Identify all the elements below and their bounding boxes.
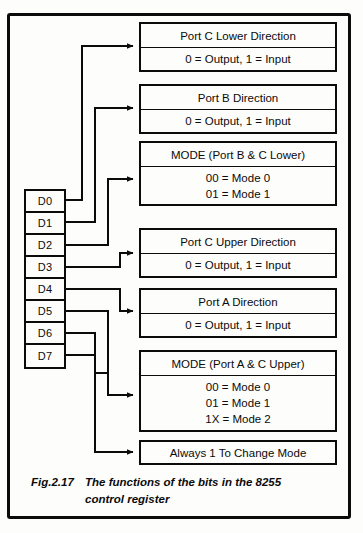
box-port-c-upper-direction: Port C Upper Direction 0 = Output, 1 = I… xyxy=(139,228,337,278)
box-body-port-b-direction: 0 = Output, 1 = Input xyxy=(141,110,335,132)
box-line-port-a-direction-0: 0 = Output, 1 = Input xyxy=(185,317,291,333)
box-body-mode-port-b-c-lower: 00 = Mode 0 01 = Mode 1 xyxy=(141,167,335,204)
box-line-mode-port-a-c-upper-0: 00 = Mode 0 xyxy=(206,379,270,395)
figure-8255-control-register: D0 D1 D2 D3 D4 D5 D6 D7 Port C Lower Dir… xyxy=(0,0,363,533)
bit-label-d5: D5 xyxy=(38,305,52,317)
wire-d0 xyxy=(66,46,133,200)
bit-label-d4: D4 xyxy=(38,283,52,295)
bit-cell-d4[interactable]: D4 xyxy=(26,279,64,301)
box-body-port-a-direction: 0 = Output, 1 = Input xyxy=(141,314,335,336)
box-line-port-b-direction-0: 0 = Output, 1 = Input xyxy=(185,113,291,129)
bit-label-d1: D1 xyxy=(38,217,52,229)
bit-label-d6: D6 xyxy=(38,327,52,339)
box-line-port-c-upper-direction-0: 0 = Output, 1 = Input xyxy=(185,257,291,273)
box-line-mode-port-a-c-upper-1: 01 = Mode 1 xyxy=(206,395,270,411)
wire-d1 xyxy=(66,108,133,222)
box-title-mode-port-a-c-upper: MODE (Port A & C Upper) xyxy=(141,352,335,376)
box-port-c-lower-direction: Port C Lower Direction 0 = Output, 1 = I… xyxy=(139,22,337,72)
box-title-port-b-direction: Port B Direction xyxy=(141,86,335,110)
bit-label-d3: D3 xyxy=(38,261,52,273)
box-mode-port-b-c-lower: MODE (Port B & C Lower) 00 = Mode 0 01 =… xyxy=(139,141,337,206)
bit-cell-d0[interactable]: D0 xyxy=(26,191,64,213)
box-title-always-1-to-change-mode: Always 1 To Change Mode xyxy=(141,442,335,463)
box-title-port-a-direction: Port A Direction xyxy=(141,290,335,314)
wire-d4 xyxy=(66,289,133,311)
box-body-mode-port-a-c-upper: 00 = Mode 0 01 = Mode 1 1X = Mode 2 xyxy=(141,376,335,430)
box-title-port-c-lower-direction: Port C Lower Direction xyxy=(141,24,335,48)
box-always-1-to-change-mode: Always 1 To Change Mode xyxy=(139,440,337,465)
bit-cell-d3[interactable]: D3 xyxy=(26,257,64,279)
figure-caption: Fig.2.17The functions of the bits in the… xyxy=(31,474,331,508)
box-port-a-direction: Port A Direction 0 = Output, 1 = Input xyxy=(139,288,337,338)
box-line-port-c-lower-direction-0: 0 = Output, 1 = Input xyxy=(185,51,291,67)
wire-d5 xyxy=(66,311,133,395)
bit-cell-d2[interactable]: D2 xyxy=(26,235,64,257)
bit-cell-d1[interactable]: D1 xyxy=(26,213,64,235)
bit-label-d2: D2 xyxy=(38,239,52,251)
wire-d7 xyxy=(66,355,133,452)
box-port-b-direction: Port B Direction 0 = Output, 1 = Input xyxy=(139,84,337,134)
box-line-mode-port-b-c-lower-0: 00 = Mode 0 xyxy=(206,170,270,186)
wire-d3 xyxy=(66,253,133,267)
figure-caption-number: Fig.2.17 xyxy=(31,474,85,491)
wire-d6 xyxy=(66,333,108,373)
box-line-mode-port-b-c-lower-1: 01 = Mode 1 xyxy=(206,186,270,202)
wire-d2 xyxy=(66,179,133,245)
box-body-port-c-lower-direction: 0 = Output, 1 = Input xyxy=(141,48,335,70)
figure-caption-line1: The functions of the bits in the 8255 xyxy=(85,476,281,488)
bit-cell-d7[interactable]: D7 xyxy=(26,345,64,367)
bit-cell-d5[interactable]: D5 xyxy=(26,301,64,323)
box-mode-port-a-c-upper: MODE (Port A & C Upper) 00 = Mode 0 01 =… xyxy=(139,350,337,432)
box-title-port-c-upper-direction: Port C Upper Direction xyxy=(141,230,335,254)
box-body-port-c-upper-direction: 0 = Output, 1 = Input xyxy=(141,254,335,276)
box-line-mode-port-a-c-upper-2: 1X = Mode 2 xyxy=(205,411,271,427)
bit-label-d0: D0 xyxy=(38,195,52,207)
bit-label-d7: D7 xyxy=(38,350,52,362)
box-title-mode-port-b-c-lower: MODE (Port B & C Lower) xyxy=(141,143,335,167)
figure-caption-line2: control register xyxy=(85,491,331,508)
bit-register-column: D0 D1 D2 D3 D4 D5 D6 D7 xyxy=(24,189,66,369)
bit-cell-d6[interactable]: D6 xyxy=(26,323,64,345)
